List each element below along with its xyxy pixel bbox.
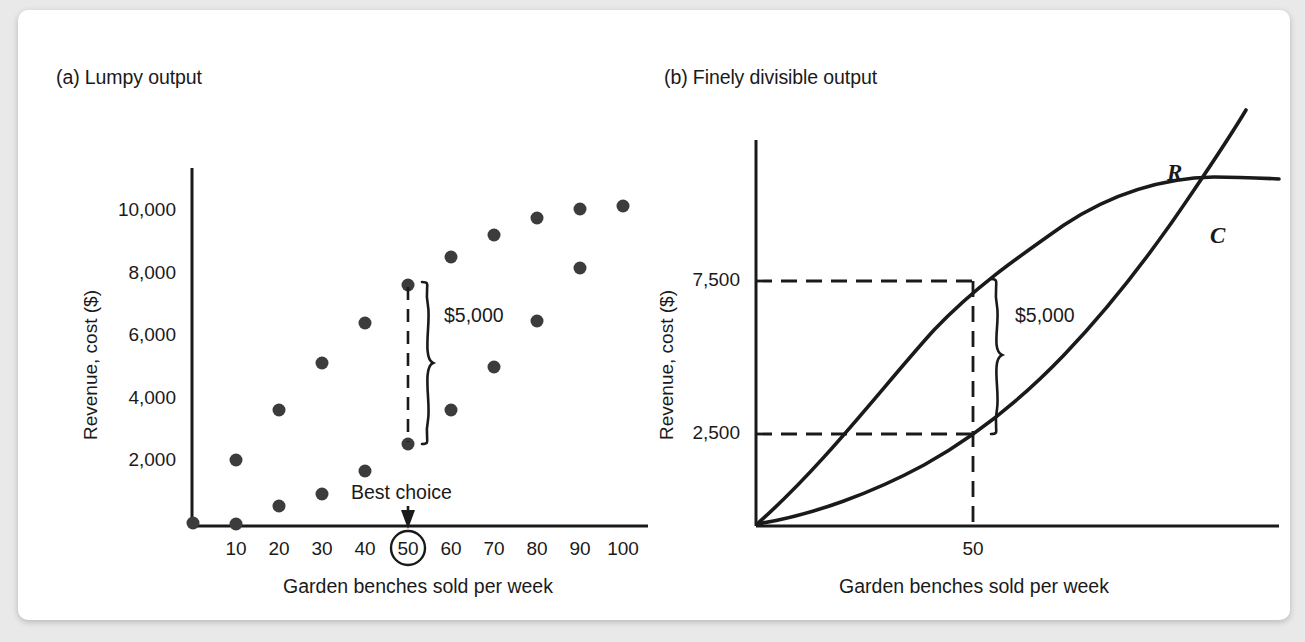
panel-a-circled-50-ring: [391, 531, 425, 565]
panel-lumpy-output: (a) Lumpy output Revenue, cost ($) 10,00…: [18, 10, 654, 620]
panel-b-plot: [634, 10, 1290, 620]
panel-a-plot: [18, 10, 654, 620]
panel-b-brace-icon: [991, 279, 1002, 434]
panel-finely-divisible-output: (b) Finely divisible output Revenue, cos…: [634, 10, 1290, 620]
panel-b-revenue-curve: [757, 177, 1279, 524]
panel-a-cost-dots: [230, 262, 587, 531]
panel-b-cost-curve: [757, 110, 1246, 524]
figure-page: (a) Lumpy output Revenue, cost ($) 10,00…: [0, 0, 1305, 642]
panel-a-brace-icon: [422, 282, 433, 444]
figure-card: (a) Lumpy output Revenue, cost ($) 10,00…: [18, 10, 1290, 620]
